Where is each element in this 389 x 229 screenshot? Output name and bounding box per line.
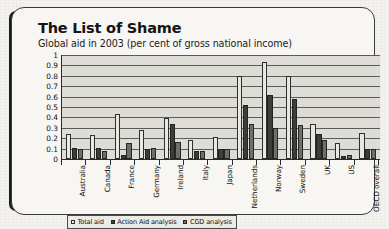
bar <box>200 151 205 159</box>
bar-group <box>135 55 159 159</box>
bar <box>66 134 71 159</box>
bar <box>298 125 303 159</box>
bar <box>121 155 126 159</box>
x-axis-label: Netherlands <box>232 165 256 211</box>
bar <box>322 140 327 159</box>
bar <box>126 143 131 159</box>
x-axis-label: Germany <box>134 165 158 211</box>
bar-group <box>111 55 135 159</box>
y-axis-tick-label: 0.3 <box>46 124 58 131</box>
x-axis-label: France <box>110 165 134 211</box>
bar <box>365 149 370 159</box>
dark-square-icon <box>111 220 115 224</box>
x-axis-label: Italy <box>183 165 207 211</box>
bar-group <box>209 55 233 159</box>
bar <box>164 118 169 159</box>
bar-group <box>86 55 110 159</box>
legend-item-label: CGD analysis <box>190 218 232 226</box>
chart-content: The List of Shame Global aid in 2003 (pe… <box>38 17 383 221</box>
bar-group <box>160 55 184 159</box>
x-axis-label: US <box>330 165 354 211</box>
chart-card-frame: The List of Shame Global aid in 2003 (pe… <box>11 7 375 215</box>
bar <box>218 149 223 159</box>
plot-area <box>61 55 380 160</box>
bar <box>267 95 272 159</box>
bar <box>175 142 180 159</box>
y-axis-tick-label: 1 <box>53 52 58 59</box>
bar <box>249 124 254 159</box>
y-axis-tick-label: 0 <box>53 156 58 163</box>
bar <box>194 151 199 159</box>
bar <box>273 128 278 159</box>
x-axis-label: Japan <box>208 165 232 211</box>
bar <box>341 156 346 159</box>
x-axis-labels: AustraliaCanadaFranceGermanyIrelandItaly… <box>61 165 379 211</box>
bar <box>286 76 291 159</box>
bar <box>96 148 101 159</box>
bar <box>102 151 107 159</box>
y-axis-tick-label: 0.2 <box>46 135 58 142</box>
page-subtitle: Global aid in 2003 (per cent of gross na… <box>38 36 383 49</box>
x-axis-label: Ireland <box>159 165 183 211</box>
bar <box>224 149 229 159</box>
bar <box>170 124 175 159</box>
bar-group <box>233 55 257 159</box>
bar <box>188 140 193 159</box>
bar <box>243 105 248 159</box>
y-axis-labels: 10.90.80.70.60.50.40.30.20.10 <box>38 55 60 159</box>
bar-group <box>282 55 306 159</box>
bar-group <box>258 55 282 159</box>
bar <box>213 137 218 159</box>
bar <box>262 62 267 159</box>
bar <box>347 155 352 159</box>
y-axis-tick-label: 0.5 <box>46 104 58 111</box>
legend-item: Action Aid analysis <box>111 218 177 226</box>
bar <box>310 124 315 159</box>
x-axis-label: Canada <box>85 165 109 211</box>
bar <box>316 134 321 159</box>
x-axis-label-text: OECD overall <box>371 165 380 212</box>
bar <box>139 130 144 159</box>
bar <box>78 149 83 159</box>
grey-square-icon <box>183 220 187 224</box>
x-axis-label: Sweden <box>281 165 305 211</box>
page-title: The List of Shame <box>38 17 383 36</box>
bar-chart: 10.90.80.70.60.50.40.30.20.10 AustraliaC… <box>38 55 383 215</box>
bar <box>335 143 340 159</box>
bar-group <box>307 55 331 159</box>
legend-item-label: Action Aid analysis <box>117 218 176 226</box>
bar <box>115 114 120 159</box>
bar <box>237 76 242 159</box>
legend-item: CGD analysis <box>183 218 231 226</box>
bar-groups <box>62 55 380 159</box>
y-axis-tick-label: 0.1 <box>46 145 58 152</box>
bar <box>292 99 297 159</box>
light-square-icon <box>71 220 75 224</box>
bar-group <box>356 55 380 159</box>
y-axis-tick-label: 0.7 <box>46 83 58 90</box>
x-axis-label: UK <box>306 165 330 211</box>
bar-group <box>184 55 208 159</box>
bar <box>145 149 150 159</box>
legend-item-label: Total aid <box>78 218 104 226</box>
bar <box>371 149 376 159</box>
bar-group <box>62 55 86 159</box>
bar <box>72 148 77 159</box>
bar <box>90 135 95 159</box>
x-axis-label: OECD overall <box>355 165 379 211</box>
y-axis-tick-label: 0.9 <box>46 62 58 69</box>
bar <box>359 133 364 159</box>
x-axis-label: Norway <box>257 165 281 211</box>
x-axis-label: Australia <box>61 165 85 211</box>
y-axis-tick-label: 0.8 <box>46 72 58 79</box>
y-axis-tick-label: 0.6 <box>46 93 58 100</box>
bar <box>151 148 156 159</box>
legend-item: Total aid <box>71 218 104 226</box>
y-axis-tick-label: 0.4 <box>46 114 58 121</box>
chart-legend: Total aidAction Aid analysisCGD analysis <box>67 215 237 229</box>
bar-group <box>331 55 355 159</box>
